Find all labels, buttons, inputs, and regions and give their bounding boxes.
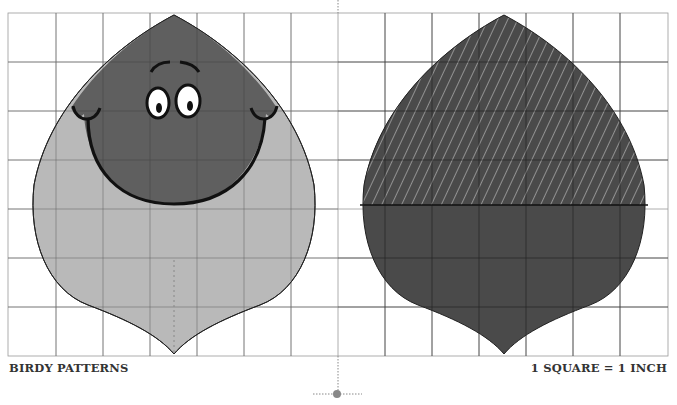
pattern-body-front — [8, 13, 338, 356]
eye-right — [176, 85, 200, 117]
center-divider — [313, 0, 362, 398]
document-title: BIRDY PATTERNS — [9, 361, 129, 375]
pattern-body-back — [338, 13, 668, 356]
scale-note: 1 SQUARE = 1 INCH — [531, 361, 667, 375]
pattern-sheet — [0, 0, 677, 405]
eye-left — [147, 88, 169, 118]
